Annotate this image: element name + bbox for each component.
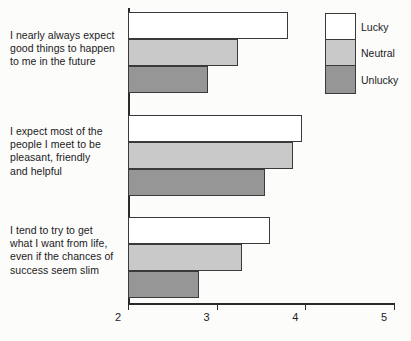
- bar-unlucky-group-2: [128, 169, 265, 196]
- x-tick-2: [128, 303, 129, 310]
- legend-swatch-box: [325, 13, 356, 94]
- category-label-3: I tend to try to get what I want from li…: [10, 224, 126, 277]
- legend-swatch-neutral: [326, 40, 355, 66]
- bar-lucky-group-1: [128, 12, 288, 39]
- bar-lucky-group-3: [128, 217, 270, 244]
- category-label-3-line-2: what I want from life,: [10, 237, 126, 250]
- category-label-1-line-1: I nearly always expect: [10, 29, 126, 42]
- bar-neutral-group-3: [128, 244, 242, 271]
- x-tick-label-4: 4: [285, 311, 305, 323]
- x-axis-line: [128, 303, 395, 305]
- bar-neutral-group-2: [128, 142, 293, 169]
- bar-unlucky-group-3: [128, 271, 199, 298]
- category-label-2-line-4: and helpful: [10, 165, 126, 178]
- category-label-1-line-3: to me in the future: [10, 55, 126, 68]
- x-tick-label-3: 3: [197, 311, 217, 323]
- category-label-2-line-3: pleasant, friendly: [10, 151, 126, 164]
- x-tick-3: [217, 303, 218, 310]
- legend-swatch-unlucky: [326, 66, 355, 93]
- category-label-2-line-1: I expect most of the: [10, 125, 126, 138]
- category-label-2: I expect most of the people I meet to be…: [10, 125, 126, 178]
- category-label-3-line-3: even if the chances of: [10, 250, 126, 263]
- category-label-3-line-4: success seem slim: [10, 264, 126, 277]
- bar-lucky-group-2: [128, 115, 302, 142]
- x-tick-5: [394, 303, 395, 310]
- x-tick-4: [305, 303, 306, 310]
- category-label-3-line-1: I tend to try to get: [10, 224, 126, 237]
- legend-label-lucky: Lucky: [361, 21, 388, 33]
- x-tick-label-5: 5: [374, 311, 394, 323]
- legend-swatch-lucky: [326, 14, 355, 40]
- category-label-1: I nearly always expect good things to ha…: [10, 29, 126, 69]
- bar-unlucky-group-1: [128, 66, 208, 93]
- legend-label-unlucky: Unlucky: [361, 74, 398, 86]
- category-label-2-line-2: people I meet to be: [10, 138, 126, 151]
- category-label-1-line-2: good things to happen: [10, 42, 126, 55]
- x-tick-label-2: 2: [108, 311, 128, 323]
- bar-chart: I nearly always expect good things to ha…: [0, 0, 411, 341]
- bar-neutral-group-1: [128, 39, 238, 66]
- legend-label-neutral: Neutral: [361, 47, 395, 59]
